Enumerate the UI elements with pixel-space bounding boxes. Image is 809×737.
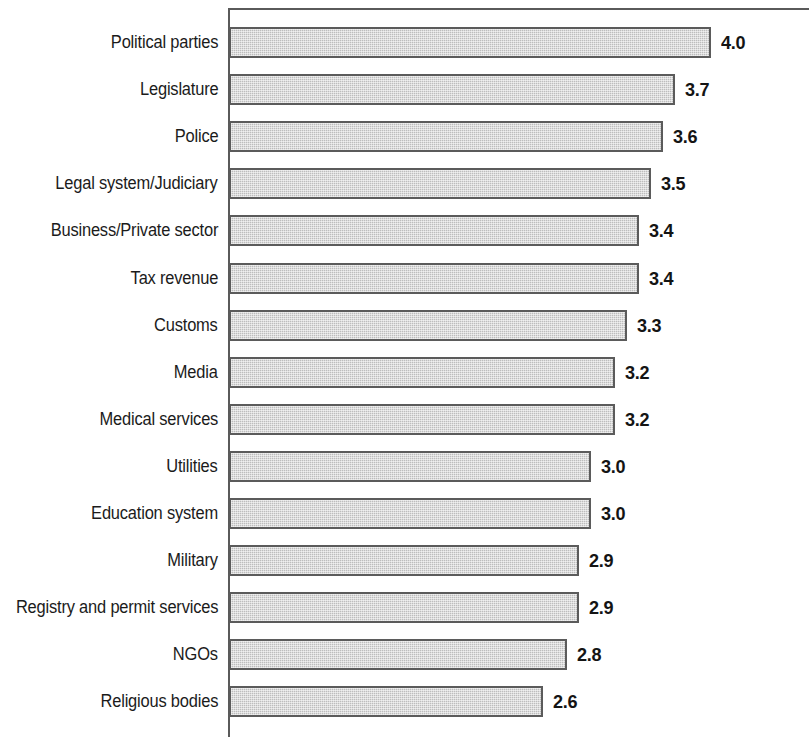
- bar: [229, 545, 579, 576]
- value-label: 2.8: [577, 639, 601, 670]
- bar: [229, 74, 675, 105]
- bar-row: Tax revenue3.4: [0, 263, 809, 294]
- category-label: Medical services: [99, 404, 218, 435]
- bar: [229, 451, 591, 482]
- value-label: 2.9: [589, 592, 613, 623]
- bar-row: Medical services3.2: [0, 404, 809, 435]
- bar: [229, 168, 651, 199]
- bar-row: Police3.6: [0, 121, 809, 152]
- value-label: 3.3: [637, 310, 661, 341]
- category-label: Military: [167, 545, 218, 576]
- bar-row: NGOs2.8: [0, 639, 809, 670]
- category-label: Political parties: [111, 27, 218, 58]
- bar-row: Military2.9: [0, 545, 809, 576]
- bar-chart: Political parties4.0Legislature3.7Police…: [0, 0, 809, 737]
- bar-rows-container: Political parties4.0Legislature3.7Police…: [0, 0, 809, 737]
- category-label: Registry and permit services: [16, 592, 218, 623]
- value-label: 3.2: [625, 404, 649, 435]
- category-label: Police: [174, 121, 218, 152]
- category-label: Business/Private sector: [50, 215, 218, 246]
- category-label: Customs: [154, 310, 218, 341]
- category-label: Utilities: [167, 451, 218, 482]
- value-label: 2.9: [589, 545, 613, 576]
- bar-row: Registry and permit services2.9: [0, 592, 809, 623]
- bar: [229, 27, 711, 58]
- bar-row: Utilities3.0: [0, 451, 809, 482]
- category-label: Religious bodies: [100, 686, 218, 717]
- bar: [229, 357, 615, 388]
- bar: [229, 263, 639, 294]
- bar-row: Legal system/Judiciary3.5: [0, 168, 809, 199]
- value-label: 3.6: [673, 121, 697, 152]
- value-label: 3.0: [601, 451, 625, 482]
- bar-row: Religious bodies2.6: [0, 686, 809, 717]
- category-label: NGOs: [173, 639, 218, 670]
- bar: [229, 215, 639, 246]
- category-label: Media: [174, 357, 218, 388]
- bar-row: Legislature3.7: [0, 74, 809, 105]
- category-label: Tax revenue: [130, 263, 218, 294]
- value-label: 2.6: [553, 686, 577, 717]
- bar-row: Education system3.0: [0, 498, 809, 529]
- bar: [229, 592, 579, 623]
- bar: [229, 639, 567, 670]
- value-label: 3.4: [649, 215, 673, 246]
- bar: [229, 121, 663, 152]
- bar-row: Customs3.3: [0, 310, 809, 341]
- bar-row: Political parties4.0: [0, 27, 809, 58]
- category-label: Legal system/Judiciary: [56, 168, 218, 199]
- bar: [229, 498, 591, 529]
- value-label: 3.4: [649, 263, 673, 294]
- bar-row: Media3.2: [0, 357, 809, 388]
- value-label: 3.2: [625, 357, 649, 388]
- value-label: 4.0: [721, 27, 745, 58]
- category-label: Education system: [91, 498, 218, 529]
- bar: [229, 404, 615, 435]
- bar: [229, 686, 543, 717]
- bar-row: Business/Private sector3.4: [0, 215, 809, 246]
- category-label: Legislature: [140, 74, 218, 105]
- value-label: 3.7: [685, 74, 709, 105]
- value-label: 3.0: [601, 498, 625, 529]
- bar: [229, 310, 627, 341]
- value-label: 3.5: [661, 168, 685, 199]
